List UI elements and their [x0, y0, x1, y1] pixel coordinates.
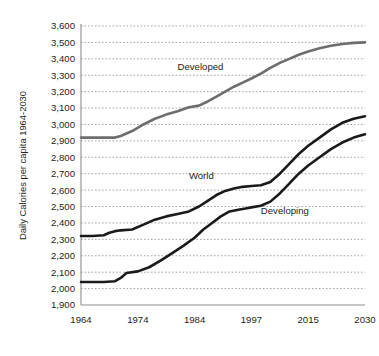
y-axis-tick-label: 1,900 — [51, 299, 75, 310]
series-paths-group — [81, 42, 365, 282]
chart-canvas: 1,9002,0002,1002,2002,3002,4002,5002,600… — [0, 0, 379, 356]
series-label-developing: Developing — [261, 205, 309, 216]
y-axis-tick-label: 2,500 — [51, 201, 75, 212]
x-axis-tick-label: 1964 — [70, 314, 92, 325]
x-axis-tick-label: 1997 — [241, 314, 262, 325]
series-annotations-group: DevelopedWorldDeveloping — [178, 61, 309, 216]
x-axis-tick-label: 1974 — [127, 314, 149, 325]
y-axis-tick-label: 3,200 — [51, 86, 75, 97]
y-axis-tick-label: 2,800 — [51, 152, 75, 163]
series-label-developed: Developed — [178, 61, 224, 72]
y-axis-tick-label: 2,200 — [51, 250, 75, 261]
y-axis-tick-label: 3,300 — [51, 70, 75, 81]
series-line-developed — [81, 42, 365, 137]
y-axis-tick-label: 3,000 — [51, 119, 75, 130]
calories-line-chart: 1,9002,0002,1002,2002,3002,4002,5002,600… — [0, 0, 379, 356]
series-label-world: World — [189, 170, 214, 181]
x-axis-tick-label: 2030 — [354, 314, 375, 325]
y-axis-tick-label: 3,600 — [51, 20, 75, 31]
y-axis-tick-label: 2,400 — [51, 217, 75, 228]
y-axis-tick-label: 2,900 — [51, 135, 75, 146]
y-axis-tick-label: 2,600 — [51, 185, 75, 196]
x-tick-labels-group: 196419741984199720152030 — [70, 314, 375, 325]
series-line-developing — [81, 134, 365, 282]
y-axis-tick-label: 2,300 — [51, 234, 75, 245]
y-axis-tick-label: 3,100 — [51, 102, 75, 113]
y-axis-tick-label: 3,500 — [51, 37, 75, 48]
x-axis-tick-label: 1984 — [184, 314, 206, 325]
y-axis-tick-label: 2,700 — [51, 168, 75, 179]
y-axis-title: Daily Calories per capita 1964-2030 — [17, 91, 28, 240]
x-axis-tick-label: 2015 — [298, 314, 319, 325]
y-axis-tick-label: 2,100 — [51, 267, 75, 278]
y-tick-labels-group: 1,9002,0002,1002,2002,3002,4002,5002,600… — [51, 20, 75, 310]
y-axis-tick-label: 3,400 — [51, 53, 75, 64]
y-axis-tick-label: 2,000 — [51, 283, 75, 294]
y-axis-title-group: Daily Calories per capita 1964-2030 — [17, 91, 28, 240]
